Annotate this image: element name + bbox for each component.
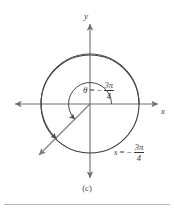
arc-length-negative-sign: − [127, 148, 132, 157]
theta-numerator: 3π [104, 81, 115, 90]
theta-fraction: 3π 4 [104, 81, 115, 100]
figure-canvas [0, 0, 174, 212]
x-axis-label: x [161, 107, 165, 116]
bottom-divider [4, 204, 170, 205]
theta-equals-sign: = [89, 86, 94, 95]
y-axis-label: y [84, 12, 88, 21]
arc-length-equals-sign: = [120, 148, 125, 157]
terminal-ray [39, 104, 90, 155]
arc-length-symbol: s [114, 148, 118, 157]
theta-symbol: θ [83, 86, 87, 95]
theta-equation-label: θ = − 3π 4 [83, 81, 114, 100]
theta-negative-sign: − [97, 86, 102, 95]
arc-length-equation-label: s = − 3π 4 [114, 143, 144, 162]
panel-caption: (c) [0, 183, 174, 193]
arc-length-denominator: 4 [136, 153, 142, 162]
arc-length-numerator: 3π [134, 143, 145, 152]
theta-denominator: 4 [106, 91, 112, 100]
unit-circle-figure-panel: y x θ = − 3π 4 s = − 3π 4 (c) [0, 0, 174, 212]
arc-length-fraction: 3π 4 [134, 143, 145, 162]
